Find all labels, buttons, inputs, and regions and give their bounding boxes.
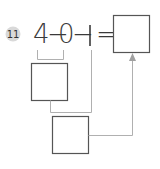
result-connector (89, 60, 133, 136)
problem-number-badge: 11 (6, 27, 21, 42)
second-box[interactable] (53, 117, 89, 154)
arrow-up-icon (129, 53, 136, 61)
answer-box[interactable] (114, 16, 150, 53)
problem-number: 11 (7, 29, 20, 40)
subtraction-diagram: 11 4 − 0 − = (0, 0, 160, 169)
intermediate-box[interactable] (32, 64, 68, 101)
bracket-connector (38, 50, 64, 60)
